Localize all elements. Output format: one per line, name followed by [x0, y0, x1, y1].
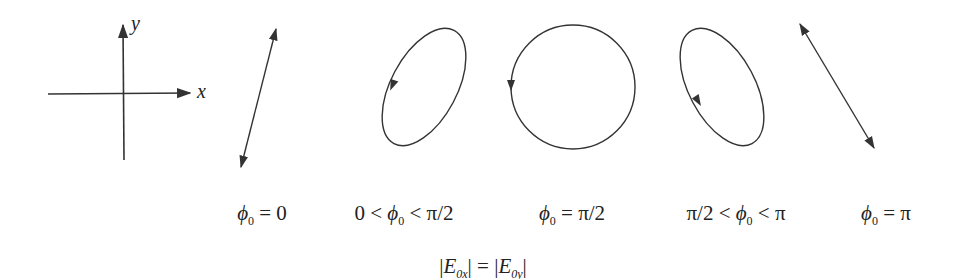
linear-polarization-line-negative: [800, 24, 874, 148]
rotation-arrow-icon: [691, 94, 703, 108]
x-axis-label: x: [197, 80, 206, 103]
phi-symbol: ϕ: [861, 201, 872, 225]
caption-phi0-zero: ϕ0 = 0: [237, 201, 287, 226]
coordinate-axes: [48, 25, 190, 160]
linear-polarization-line-positive: [241, 29, 276, 167]
elliptical-polarization-right-tilt: [365, 15, 483, 159]
caption-phi0-pi-half: ϕ0 = π/2: [539, 201, 605, 226]
phi-symbol: ϕ: [237, 201, 248, 225]
phi-symbol: ϕ: [539, 201, 550, 225]
amplitude-condition: |E0x| = |E0y|: [439, 254, 527, 279]
elliptical-polarization-left-tilt: [663, 15, 781, 159]
polarization-diagram: [0, 0, 965, 279]
caption-phi0-pi-half-to-pi: π/2 < ϕ0 < π: [686, 201, 785, 226]
phi-symbol: ϕ: [736, 201, 747, 225]
circular-polarization: [507, 25, 635, 149]
y-axis: [123, 25, 124, 160]
caption-phi0-pi: ϕ0 = π: [861, 201, 911, 226]
rotation-arrow-icon: [507, 80, 515, 91]
x-axis: [48, 93, 190, 94]
y-axis-label: y: [131, 12, 140, 35]
phi-symbol: ϕ: [387, 201, 398, 225]
caption-phi0-0-to-pi-half: 0 < ϕ0 < π/2: [355, 201, 454, 226]
